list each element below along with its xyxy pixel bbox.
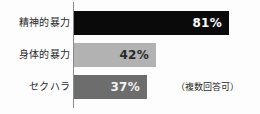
bar-physical-violence: 42%	[74, 43, 156, 67]
category-label-sexual-harassment: セクハラ	[0, 81, 70, 93]
chart-footnote: （複数回答可）	[176, 82, 239, 93]
bar-psychological-violence: 81%	[74, 11, 229, 35]
bar-value-sexual-harassment: 37%	[110, 81, 147, 93]
bar-value-psychological-violence: 81%	[192, 17, 229, 29]
bar-sexual-harassment: 37%	[74, 75, 147, 99]
category-label-physical-violence: 身体的暴力	[0, 49, 70, 61]
category-label-psychological-violence: 精神的暴力	[0, 17, 70, 29]
bar-value-physical-violence: 42%	[119, 49, 156, 61]
bar-chart: 精神的暴力 81% 身体的暴力 42% セクハラ 37% （複数回答可）	[0, 0, 260, 114]
